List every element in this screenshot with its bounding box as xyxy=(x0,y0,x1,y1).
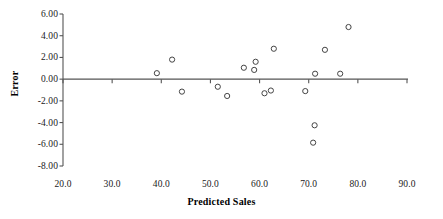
x-tick-label: 50.0 xyxy=(190,179,230,189)
y-tick-label: 4.00 xyxy=(14,31,58,41)
y-tick-label: -2.00 xyxy=(14,96,58,106)
data-point xyxy=(313,71,318,76)
data-point xyxy=(252,67,257,72)
data-point xyxy=(179,89,184,94)
y-tick-label: 6.00 xyxy=(14,9,58,19)
x-axis-title: Predicted Sales xyxy=(0,196,443,207)
data-point xyxy=(271,46,276,51)
data-point xyxy=(170,57,175,62)
x-tick-label: 70.0 xyxy=(289,179,329,189)
y-tick-label: -8.00 xyxy=(14,161,58,171)
y-tick-label: 0.00 xyxy=(14,74,58,84)
x-tick-label: 80.0 xyxy=(338,179,378,189)
y-tick-label: -6.00 xyxy=(14,139,58,149)
x-tick-label: 30.0 xyxy=(92,179,132,189)
x-tick-label: 90.0 xyxy=(387,179,427,189)
data-point xyxy=(225,93,230,98)
data-point xyxy=(154,71,159,76)
data-point xyxy=(241,65,246,70)
scatter-chart: 6.004.002.000.00-2.00-4.00-6.00-8.00 20.… xyxy=(0,0,443,219)
data-point xyxy=(215,84,220,89)
x-tick-label: 60.0 xyxy=(240,179,280,189)
x-tick-label: 40.0 xyxy=(141,179,181,189)
data-point xyxy=(312,123,317,128)
data-point xyxy=(311,140,316,145)
data-point xyxy=(346,24,351,29)
y-tick-label: 2.00 xyxy=(14,52,58,62)
x-tick-label: 20.0 xyxy=(43,179,83,189)
data-point xyxy=(338,71,343,76)
data-point-group xyxy=(154,24,351,145)
data-point xyxy=(322,47,327,52)
data-point xyxy=(253,59,258,64)
y-tick-label: -4.00 xyxy=(14,118,58,128)
data-point xyxy=(268,88,273,93)
data-point xyxy=(303,88,308,93)
data-point xyxy=(262,91,267,96)
y-axis-title: Error xyxy=(9,54,20,114)
